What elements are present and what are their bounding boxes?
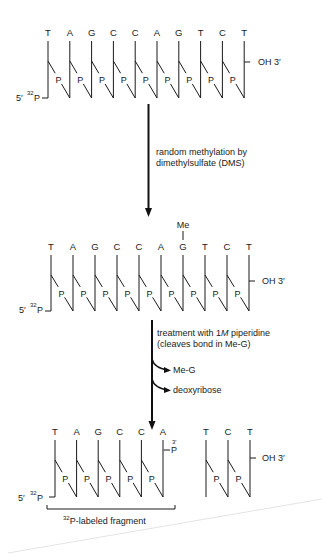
phosphodiester-bond	[157, 61, 164, 73]
phosphodiester-bond	[141, 460, 148, 472]
base-a: A	[70, 241, 77, 252]
base-c: C	[114, 241, 121, 252]
base-c: C	[136, 241, 143, 252]
phosphate-label: P	[127, 474, 133, 484]
base-t: T	[202, 241, 208, 252]
phosphodiester-bond	[113, 61, 120, 73]
base-t: T	[52, 426, 58, 437]
phosphodiester-bond	[149, 84, 157, 98]
phosphate-label: P	[213, 289, 219, 299]
base-t: T	[203, 426, 209, 437]
phosphodiester-bond	[68, 483, 76, 497]
base-a: A	[160, 426, 167, 437]
base-g: G	[95, 426, 102, 437]
phosphate-label: P	[125, 289, 131, 299]
phosphodiester-bond	[133, 483, 141, 497]
phosphodiester-bond	[70, 61, 77, 73]
base-g: G	[88, 27, 95, 38]
phosphate-label: P	[55, 75, 61, 85]
arrow-head-icon	[145, 208, 152, 217]
phosphodiester-bond	[219, 297, 227, 311]
base-t: T	[246, 241, 252, 252]
phosphodiester-bond	[87, 297, 95, 311]
phosphate-label: P	[81, 289, 87, 299]
strand-original: TPAPGPCPCPAPGPTPCPT	[42, 27, 250, 98]
phosphodiester-bond	[95, 275, 102, 287]
base-c: C	[138, 426, 145, 437]
phosphodiester-bond	[227, 275, 234, 287]
phosphate-label: P	[121, 75, 127, 85]
reaction-arrow-methylation	[145, 104, 152, 217]
phosphodiester-bond	[228, 460, 235, 472]
phosphate-label: P	[84, 474, 90, 484]
base-c: C	[110, 27, 117, 38]
base-c: C	[225, 426, 232, 437]
fragment-labeled: TPAPGPCPCPA	[49, 426, 167, 497]
base-t: T	[45, 27, 51, 38]
phosphate-label: P	[236, 474, 242, 484]
phosphodiester-bond	[214, 84, 222, 98]
phosphate-label: P	[169, 289, 175, 299]
phosphodiester-bond	[117, 275, 124, 287]
phosphodiester-bond	[65, 297, 73, 311]
phosphodiester-bond	[206, 460, 213, 472]
phosphate-label: P	[214, 474, 220, 484]
phosphate-32p-label: P	[37, 305, 43, 315]
phosphate-label: P	[191, 289, 197, 299]
phosphodiester-bond	[77, 460, 84, 472]
released-deoxyribose-label: deoxyribose	[173, 385, 222, 395]
base-a: A	[154, 27, 161, 38]
base-t: T	[48, 241, 54, 252]
phosphodiester-bond	[153, 297, 161, 311]
phosphodiester-bond	[201, 61, 208, 73]
phosphodiester-bond	[105, 84, 113, 98]
phosphodiester-bond	[155, 483, 163, 497]
base-a: A	[158, 241, 165, 252]
phosphate-label: P	[186, 75, 192, 85]
phosphodiester-bond	[220, 483, 228, 497]
phosphate-label: P	[230, 75, 236, 85]
phosphodiester-bond	[139, 275, 146, 287]
base-t: T	[247, 426, 253, 437]
strand-methylated: TPAPGPCPCPAPGPTPCPTMe	[45, 220, 255, 311]
five-prime-label: 5′	[19, 305, 26, 315]
phosphodiester-bond	[48, 61, 55, 73]
base-a: A	[67, 27, 74, 38]
phosphodiester-bond	[55, 460, 62, 472]
phosphodiester-bond	[83, 84, 91, 98]
phosphodiester-bond	[62, 84, 70, 98]
phosphodiester-bond	[92, 61, 99, 73]
three-prime-oh-label: OH 3′	[258, 57, 281, 67]
step2-label-line1: treatment with 1M piperidine	[157, 328, 270, 338]
phosphate-label: P	[106, 474, 112, 484]
phosphodiester-bond	[241, 297, 249, 311]
phosphodiester-bond	[222, 61, 229, 73]
three-prime-phosphate-label: P	[171, 445, 177, 455]
phosphate-label: P	[164, 75, 170, 85]
phosphate-label: P	[103, 289, 109, 299]
phosphate-label: P	[149, 474, 155, 484]
phosphodiester-bond	[131, 297, 139, 311]
phosphate-32p-label: P	[34, 93, 40, 103]
phosphodiester-bond	[161, 275, 168, 287]
phosphodiester-bond	[90, 483, 98, 497]
phosphodiester-bond	[120, 460, 127, 472]
phosphate-label: P	[235, 289, 241, 299]
three-prime-oh-label: OH 3′	[262, 276, 285, 286]
step1-label-line2: dimethylsulfate (DMS)	[156, 158, 245, 168]
base-g: G	[179, 241, 186, 252]
phosphodiester-bond	[197, 297, 205, 311]
phosphate-label: P	[147, 289, 153, 299]
phosphate-label: P	[59, 289, 65, 299]
base-g: G	[175, 27, 182, 38]
phosphodiester-bond	[98, 460, 105, 472]
phosphodiester-bond	[179, 61, 186, 73]
three-prime-oh-label: OH 3′	[262, 453, 285, 463]
released-me-g-label: Me-G	[173, 365, 196, 375]
base-t: T	[198, 27, 204, 38]
phosphodiester-bond	[183, 275, 190, 287]
step2-label-line2: (cleaves bond in Me-G)	[157, 339, 251, 349]
fragment-unlabeled: TPCPT	[203, 426, 256, 497]
five-prime-label: 5′	[18, 493, 25, 503]
base-c: C	[116, 426, 123, 437]
